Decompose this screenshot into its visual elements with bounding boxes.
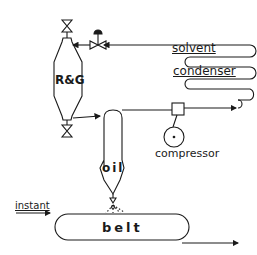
compressor-label: compressor — [155, 148, 219, 159]
oil-separator — [100, 110, 124, 194]
control-valve-icon — [90, 30, 106, 49]
top-valve-icon — [62, 20, 72, 38]
rg-label: R&G — [55, 74, 85, 86]
process-diagram — [0, 0, 257, 255]
bottom-valve-icon — [62, 120, 72, 137]
instant-label: instant — [15, 201, 50, 211]
condenser-label: condenser — [173, 65, 236, 77]
belt-label: belt — [102, 221, 143, 234]
oil-label: oil — [102, 162, 124, 174]
spray-icon — [106, 205, 124, 213]
nozzle-icon — [110, 198, 116, 203]
junction-box — [172, 103, 184, 115]
solvent-label: solvent — [172, 42, 216, 54]
